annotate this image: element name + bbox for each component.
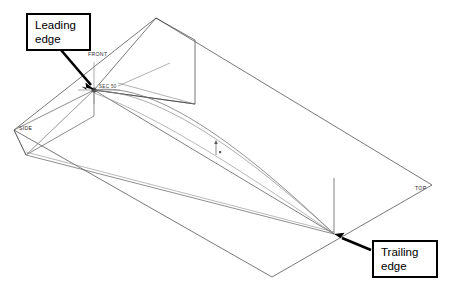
callout-leading-edge: Leading edge	[26, 13, 91, 51]
callout-trailing-edge-line2: edge	[381, 259, 429, 273]
callout-leading-edge-line1: Leading	[35, 18, 82, 32]
plane-tag-top: TOP	[415, 185, 426, 191]
section-tag-sec-50: SEC 50	[99, 84, 117, 89]
origin-axis-marker	[214, 140, 221, 155]
wing-surface-wireframe	[26, 89, 334, 234]
callout-leading-edge-line2: edge	[35, 32, 82, 46]
plane-tag-side: SIDE	[19, 125, 32, 131]
front-reference-plane	[94, 18, 195, 104]
top-reference-plane	[14, 18, 432, 277]
side-reference-plane	[14, 90, 94, 155]
leading-edge-axis-stub	[78, 62, 120, 104]
plane-tag-front: FRONT	[88, 51, 107, 57]
callout-trailing-edge: Trailing edge	[372, 240, 438, 278]
callout-trailing-edge-line1: Trailing	[381, 245, 429, 259]
diagram-canvas: FRONT SIDE TOP SEC 50 Leading edge Trail…	[0, 0, 450, 292]
section-leader-lines	[118, 63, 195, 104]
trailing-edge-arrow	[334, 233, 371, 250]
